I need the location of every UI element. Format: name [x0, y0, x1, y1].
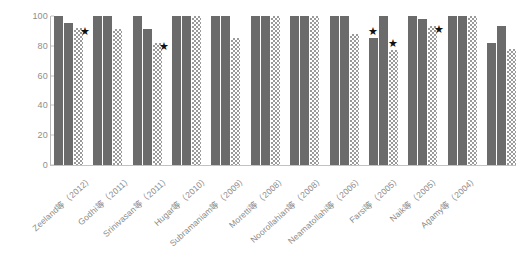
x-axis-label: Srinivasan等（2011）	[100, 172, 172, 239]
significance-star-icon: ★	[368, 26, 378, 37]
bar	[103, 16, 112, 165]
bar	[418, 19, 427, 165]
bar	[113, 29, 122, 165]
bar: ★	[74, 28, 83, 165]
bar	[182, 16, 191, 165]
bar	[261, 16, 270, 165]
bar-chart: 020406080100 ★★★★★ Zeeland等（2012）Godhi等（…	[0, 0, 522, 272]
bar	[310, 16, 319, 165]
bar: ★	[153, 43, 162, 165]
bar-groups: ★★★★★	[54, 16, 516, 165]
bar-group	[448, 16, 477, 165]
bar	[192, 16, 201, 165]
significance-star-icon: ★	[388, 38, 398, 49]
bar	[271, 16, 280, 165]
bar	[54, 16, 63, 165]
bar	[64, 23, 73, 165]
bar: ★	[428, 26, 437, 165]
bar	[468, 16, 477, 165]
bar	[408, 16, 417, 165]
bar-group	[93, 16, 122, 165]
bar	[251, 16, 260, 165]
bar	[350, 34, 359, 165]
bar	[458, 16, 467, 165]
bar-group	[211, 16, 240, 165]
significance-star-icon: ★	[80, 26, 90, 37]
bar-group	[172, 16, 201, 165]
bar-group	[251, 16, 280, 165]
significance-star-icon: ★	[159, 41, 169, 52]
bar-group: ★★	[369, 16, 398, 165]
significance-star-icon: ★	[434, 24, 444, 35]
bar	[93, 16, 102, 165]
bar-group: ★	[54, 16, 83, 165]
bar	[231, 38, 240, 165]
bar	[340, 16, 349, 165]
bar	[221, 16, 230, 165]
bar-group	[487, 16, 516, 165]
bar	[290, 16, 299, 165]
bar	[211, 16, 220, 165]
x-axis-line	[50, 165, 516, 166]
bar-group	[290, 16, 319, 165]
bar: ★	[389, 50, 398, 165]
bar	[487, 43, 496, 165]
bar	[448, 16, 457, 165]
bar	[507, 49, 516, 165]
bar	[143, 29, 152, 165]
bar	[133, 16, 142, 165]
bar	[497, 26, 506, 165]
bar-group: ★	[133, 16, 162, 165]
bar	[379, 16, 388, 165]
bar	[300, 16, 309, 165]
bar	[172, 16, 181, 165]
bar: ★	[369, 38, 378, 165]
y-axis-line	[50, 16, 51, 166]
plot-area: 020406080100 ★★★★★	[54, 16, 516, 165]
bar-group	[330, 16, 359, 165]
x-axis-labels: Zeeland等（2012）Godhi等（2011）Srinivasan等（20…	[54, 168, 516, 268]
bar	[330, 16, 339, 165]
bar-group: ★	[408, 16, 437, 165]
